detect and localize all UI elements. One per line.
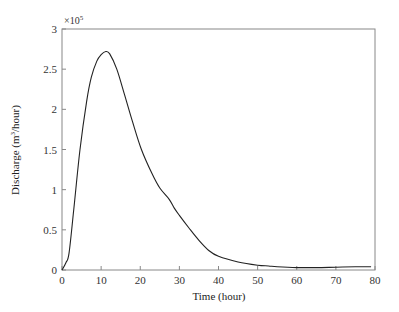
plot-frame bbox=[62, 29, 375, 270]
y-tick-label: 0.5 bbox=[43, 224, 57, 236]
y-tick-label: 2 bbox=[52, 103, 58, 115]
y-tick-label: 0 bbox=[52, 264, 58, 276]
x-tick-label: 0 bbox=[59, 274, 65, 286]
x-axis-ticks: 01020304050607080 bbox=[59, 266, 381, 286]
y-tick-label: 2.5 bbox=[43, 63, 57, 75]
x-tick-label: 10 bbox=[96, 274, 108, 286]
discharge-hydrograph-chart: 01020304050607080 00.511.522.53 ×105 Tim… bbox=[0, 0, 399, 312]
x-tick-label: 30 bbox=[174, 274, 186, 286]
y-tick-label: 1.5 bbox=[43, 144, 57, 156]
y-tick-label: 1 bbox=[52, 184, 58, 196]
x-tick-label: 60 bbox=[291, 274, 303, 286]
y-tick-label: 3 bbox=[52, 23, 58, 35]
x-tick-label: 50 bbox=[252, 274, 264, 286]
x-tick-label: 40 bbox=[213, 274, 225, 286]
y-multiplier: ×105 bbox=[64, 14, 84, 26]
x-tick-label: 70 bbox=[330, 274, 342, 286]
x-tick-label: 80 bbox=[370, 274, 382, 286]
x-axis-label: Time (hour) bbox=[192, 290, 245, 303]
y-axis-ticks: 00.511.522.53 bbox=[43, 23, 66, 276]
x-tick-label: 20 bbox=[135, 274, 147, 286]
y-axis-label: Discharge (m3/hour) bbox=[9, 105, 22, 195]
discharge-line bbox=[62, 51, 371, 270]
